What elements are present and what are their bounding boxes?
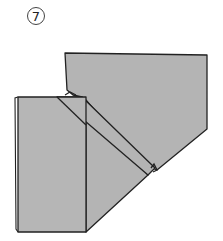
left-flap <box>18 97 86 232</box>
origami-diagram <box>0 0 223 241</box>
